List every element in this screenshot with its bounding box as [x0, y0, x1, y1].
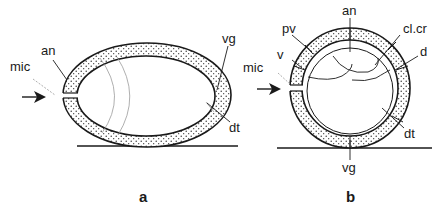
label-v-b: v	[277, 47, 284, 62]
label-dt-a: dt	[229, 120, 240, 135]
label-vg-a: vg	[222, 31, 236, 46]
label-clcr-b: cl.cr	[403, 21, 428, 36]
embryo-circle	[307, 48, 393, 134]
label-pv-b: pv	[282, 21, 296, 36]
label-an-b: an	[342, 3, 356, 18]
panel-letter-a: a	[139, 188, 148, 205]
label-d-b: d	[420, 44, 427, 59]
arrow-icon	[22, 91, 46, 103]
cleavage-arc-1	[333, 56, 378, 72]
panel-b: an pv cl.cr v d mic dt vg b	[243, 3, 432, 205]
panel-letter-b: b	[346, 188, 355, 205]
label-vg-b: vg	[342, 160, 356, 175]
label-mic-a: mic	[10, 59, 31, 74]
label-an-a: an	[41, 43, 55, 58]
internal-arc-1	[100, 58, 115, 133]
label-mic-b: mic	[243, 60, 264, 75]
chorion-ring-a	[63, 43, 231, 147]
panel-a: mic an vg dt a	[10, 31, 240, 205]
egg-diagram: mic an vg dt a	[0, 0, 445, 212]
cleavage-arc-3	[352, 70, 390, 81]
label-dt-b: dt	[404, 126, 415, 141]
arrow-icon-b	[257, 83, 281, 95]
internal-arc-2	[117, 57, 130, 135]
